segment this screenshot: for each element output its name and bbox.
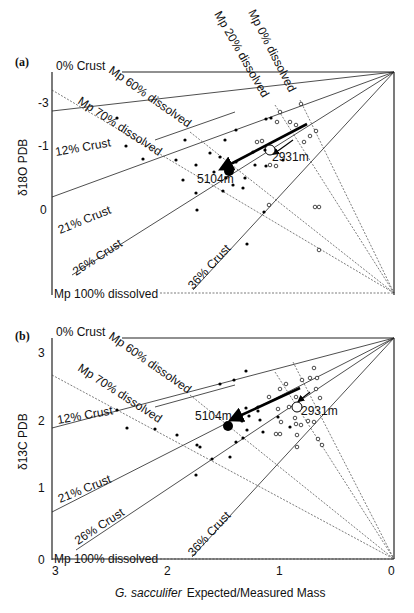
label-crust26: 26% Crust <box>70 236 125 279</box>
panel-b-label: (b) <box>15 329 30 343</box>
xtick: 0 <box>388 564 395 578</box>
label-5104m-b: 5104m <box>195 409 232 423</box>
label-crust12-b: 12% Crust <box>56 403 114 427</box>
label-crust0: 0% Crust <box>56 59 106 73</box>
label-crust36: 36% Crust <box>185 241 234 292</box>
label-5104m: 5104m <box>197 172 234 186</box>
mp0-line <box>300 100 394 293</box>
ytick: 0 <box>40 203 47 217</box>
label-2931m: 2931m <box>272 150 309 164</box>
label-crust21-b: 21% Crust <box>56 472 114 506</box>
xtick: 2 <box>164 564 171 578</box>
label-crust21: 21% Crust <box>56 203 114 237</box>
label-crust0-b: 0% Crust <box>56 325 106 339</box>
ytick: -1 <box>38 139 49 153</box>
ytick: 2 <box>38 414 45 428</box>
label-2931m-b: 2931m <box>301 404 338 418</box>
y-axis-label: δ18O PDB <box>16 139 30 196</box>
ytick: 0 <box>38 553 45 567</box>
label-mp100: Mp 100% dissolved <box>54 287 158 301</box>
label-crust26-b: 26% Crust <box>72 505 127 548</box>
figure: (a) -3 -1 0 δ18O PDB 0% Crust Mp 60% dis… <box>0 0 414 613</box>
panel-a: (a) -3 -1 0 δ18O PDB 0% Crust Mp 60% dis… <box>15 7 394 301</box>
label-crust36-b: 36% Crust <box>185 508 234 559</box>
panel-b: (b) 3 2 1 0 δ13C PDB 0% Crust Mp 60% dis… <box>15 325 395 600</box>
ytick: -3 <box>38 96 49 110</box>
panel-a-label: (a) <box>15 55 29 69</box>
crust12-line <box>52 72 394 111</box>
label-crust12: 12% Crust <box>54 135 112 159</box>
xtick: 1 <box>276 564 283 578</box>
xtick: 3 <box>52 564 59 578</box>
label-mp100-b: Mp 100% dissolved <box>54 552 158 566</box>
ytick: 3 <box>38 346 45 360</box>
mp20-line <box>275 105 394 293</box>
x-axis-label: G. sacculiferExpected/Measured Mass <box>115 586 325 600</box>
y-axis-label-b: δ13C PDB <box>16 413 30 470</box>
ytick: 1 <box>38 481 45 495</box>
